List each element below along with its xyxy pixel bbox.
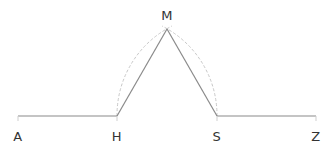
point-label-z: Z	[311, 129, 320, 144]
geometry-diagram: A H S Z M	[0, 0, 334, 152]
point-label-h: H	[112, 129, 122, 144]
segment-h-m	[117, 29, 167, 116]
point-label-a: A	[13, 129, 22, 144]
point-label-s: S	[213, 129, 222, 144]
point-label-m: M	[161, 8, 173, 23]
segment-m-s	[167, 29, 217, 116]
